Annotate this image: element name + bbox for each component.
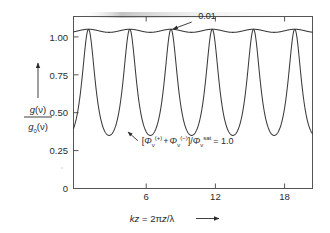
annotation-label-001: 0.01 [198,11,216,21]
formula-plus: + [163,136,168,146]
svg-text:[Φν(+)+Φν(−)]/Φνsat= 1.0: [Φν(+)+Φν(−)]/Φνsat= 1.0 [142,135,234,148]
formula-phi2-sup: (−) [180,135,188,141]
formula-phi3-sup: sat [203,135,211,141]
svg-text:g0(ν): g0(ν) [28,121,48,134]
y-tick-label-025: 0.25 [50,145,69,156]
curve-saturation-001 [74,29,313,32]
y-axis-tick-labels: 0 0.25 0.50 0.75 1.00 [50,32,69,195]
annotation-label-formula: [Φν(+)+Φν(−)]/Φνsat= 1.0 [142,135,234,148]
xlabel-equals: = 2 [139,213,155,224]
curve-saturation-1 [74,29,313,135]
y-tick-label-075: 0.75 [50,70,69,81]
annotation-arrow-formula [128,132,138,141]
x-axis-label: kz = 2πz/λ [130,213,219,224]
formula-phi1-sub: ν [152,142,155,148]
y-axis-label: g(ν) g0(ν) [24,63,52,134]
x-axis-tick-labels: 6 12 18 [144,191,290,202]
ylabel-denominator-arg: (ν) [37,121,48,132]
scan-smudge-artifact [80,12,310,18]
x-tick-label-6: 6 [144,191,149,202]
plot-frame [74,17,313,189]
scan-speck-artifact [61,167,63,169]
formula-phi1-sup: (+) [155,135,163,141]
svg-text:g(ν): g(ν) [30,104,46,115]
ylabel-numerator-arg: (ν) [35,104,46,115]
annotation-strong-saturation: [Φν(+)+Φν(−)]/Φνsat= 1.0 [128,132,234,148]
data-curves [74,29,313,135]
x-tick-label-18: 18 [279,191,290,202]
formula-phi3-sub: ν [200,142,203,148]
formula-phi2-sub: ν [177,142,180,148]
y-tick-label-0: 0 [63,183,68,194]
y-tick-label-050: 0.50 [50,107,69,118]
xlabel-lambda: λ [169,213,174,224]
chart-plot: 0 0.25 0.50 0.75 1.00 6 12 18 [0,0,330,233]
x-tick-label-12: 12 [210,191,221,202]
figure-container: 0 0.25 0.50 0.75 1.00 6 12 18 [0,0,330,233]
y-tick-label-100: 1.00 [50,32,69,43]
annotation-arrow-001 [173,22,191,29]
svg-text:kz = 2πz/λ: kz = 2πz/λ [130,213,175,224]
formula-equals: = 1.0 [213,136,233,146]
